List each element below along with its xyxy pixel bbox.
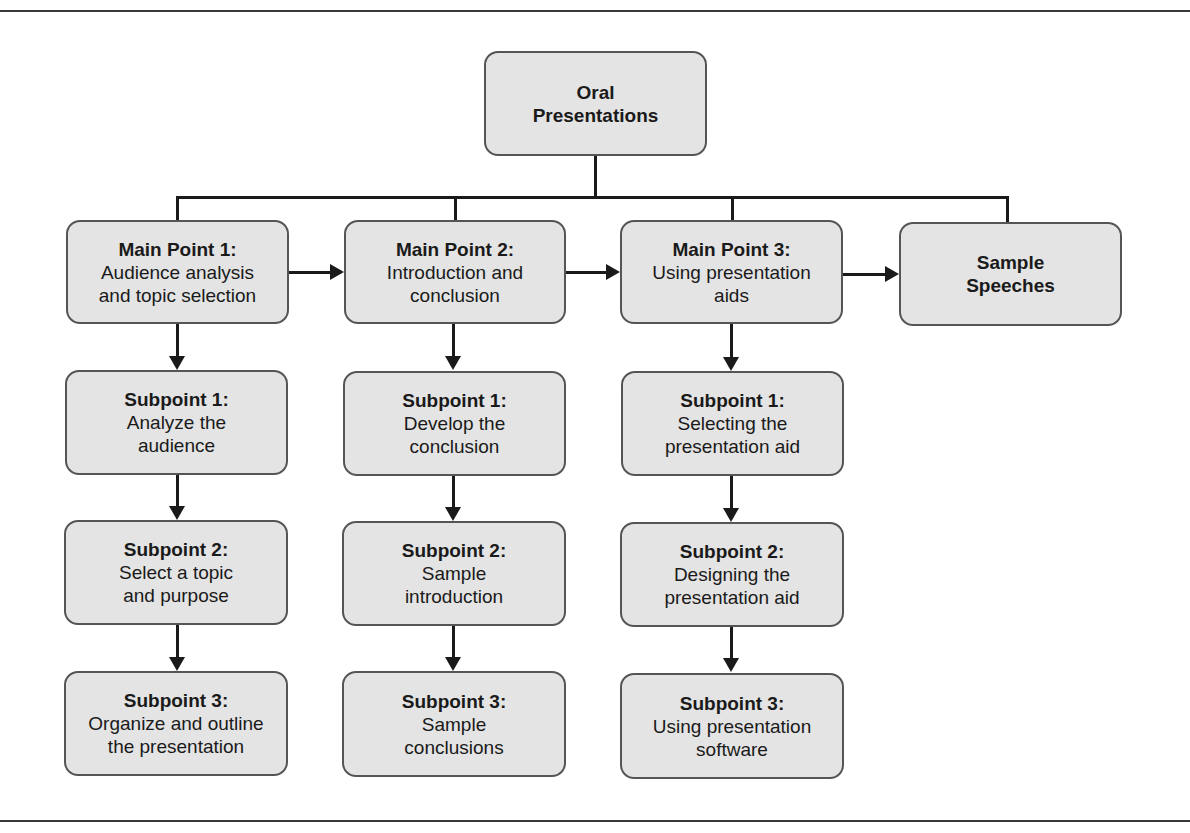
main-point-1-head: Main Point 1: xyxy=(118,238,236,261)
arrow-down-icon xyxy=(169,356,185,370)
mp2-subpoint-1: Subpoint 1: Develop the conclusion xyxy=(343,371,566,476)
mp1-sp1-body: Analyze the audience xyxy=(112,411,242,457)
col3-shaft-3 xyxy=(730,627,733,660)
mp1-sp2-head: Subpoint 2: xyxy=(124,538,228,561)
arrow-right-icon xyxy=(330,264,344,280)
arrow-mp1-mp2-shaft xyxy=(289,271,331,274)
mp3-subpoint-1: Subpoint 1: Selecting the presentation a… xyxy=(621,371,844,476)
main-point-2-body: Introduction and conclusion xyxy=(380,261,530,307)
main-point-1: Main Point 1: Audience analysis and topi… xyxy=(66,220,289,324)
sample-speeches-line1: Sample xyxy=(977,251,1045,274)
main-point-3-head: Main Point 3: xyxy=(672,238,790,261)
col1-shaft-2 xyxy=(176,475,179,508)
mp2-sp2-head: Subpoint 2: xyxy=(402,539,506,562)
arrow-down-icon xyxy=(445,356,461,370)
top-rule xyxy=(0,10,1190,12)
arrow-down-icon xyxy=(723,357,739,371)
arrow-down-icon xyxy=(723,658,739,672)
mp2-subpoint-2: Subpoint 2: Sample introduction xyxy=(342,521,566,626)
col2-shaft-2 xyxy=(452,476,455,509)
mp2-sp3-head: Subpoint 3: xyxy=(402,690,506,713)
mp2-subpoint-3: Subpoint 3: Sample conclusions xyxy=(342,671,566,777)
sample-speeches-line2: Speeches xyxy=(966,274,1055,297)
arrow-mp3-sample-shaft xyxy=(843,273,887,276)
mp3-sp3-head: Subpoint 3: xyxy=(680,692,784,715)
bus-line xyxy=(176,196,1009,199)
mp2-sp1-body: Develop the conclusion xyxy=(390,412,520,458)
col3-shaft-2 xyxy=(730,476,733,510)
drop-mp2 xyxy=(454,196,457,221)
mp1-sp1-head: Subpoint 1: xyxy=(124,388,228,411)
arrow-down-icon xyxy=(723,508,739,522)
col3-shaft-1 xyxy=(730,324,733,359)
arrow-right-icon xyxy=(885,266,899,282)
main-point-1-body: Audience analysis and topic selection xyxy=(83,261,273,307)
mp3-sp2-head: Subpoint 2: xyxy=(680,540,784,563)
mp1-sp3-head: Subpoint 3: xyxy=(124,689,228,712)
arrow-down-icon xyxy=(445,657,461,671)
main-point-2-head: Main Point 2: xyxy=(396,238,514,261)
arrow-down-icon xyxy=(169,657,185,671)
mp3-sp1-head: Subpoint 1: xyxy=(680,389,784,412)
root-title-line1: Oral xyxy=(576,81,614,104)
mp1-sp2-body: Select a topic and purpose xyxy=(106,561,246,607)
main-point-3: Main Point 3: Using presentation aids xyxy=(620,220,843,324)
col1-shaft-3 xyxy=(176,625,179,659)
drop-mp3 xyxy=(731,196,734,221)
arrow-right-icon xyxy=(606,264,620,280)
bottom-rule xyxy=(0,820,1190,822)
mp3-sp1-body: Selecting the presentation aid xyxy=(653,412,813,458)
sample-speeches: Sample Speeches xyxy=(899,222,1122,326)
mp2-sp1-head: Subpoint 1: xyxy=(402,389,506,412)
arrow-down-icon xyxy=(169,506,185,520)
mp3-subpoint-3: Subpoint 3: Using presentation software xyxy=(620,673,844,779)
mp3-subpoint-2: Subpoint 2: Designing the presentation a… xyxy=(620,522,844,627)
drop-sample xyxy=(1006,196,1009,223)
col2-shaft-3 xyxy=(452,626,455,659)
mp1-sp3-body: Organize and outline the presentation xyxy=(74,712,279,758)
arrow-down-icon xyxy=(445,507,461,521)
arrow-mp2-mp3-shaft xyxy=(566,271,608,274)
drop-mp1 xyxy=(176,196,179,221)
root-title-line2: Presentations xyxy=(533,104,659,127)
mp2-sp2-body: Sample introduction xyxy=(389,562,519,608)
main-point-3-body: Using presentation aids xyxy=(647,261,817,307)
mp3-sp3-body: Using presentation software xyxy=(637,715,827,761)
root-node-oral-presentations: Oral Presentations xyxy=(484,51,707,156)
root-connector xyxy=(594,156,597,198)
main-point-2: Main Point 2: Introduction and conclusio… xyxy=(344,220,566,324)
col2-shaft-1 xyxy=(452,324,455,358)
mp1-subpoint-2: Subpoint 2: Select a topic and purpose xyxy=(64,520,288,625)
col1-shaft-1 xyxy=(176,324,179,358)
mp3-sp2-body: Designing the presentation aid xyxy=(652,563,812,609)
mp1-subpoint-1: Subpoint 1: Analyze the audience xyxy=(65,370,288,475)
mp1-subpoint-3: Subpoint 3: Organize and outline the pre… xyxy=(64,671,288,776)
mp2-sp3-body: Sample conclusions xyxy=(389,713,519,759)
